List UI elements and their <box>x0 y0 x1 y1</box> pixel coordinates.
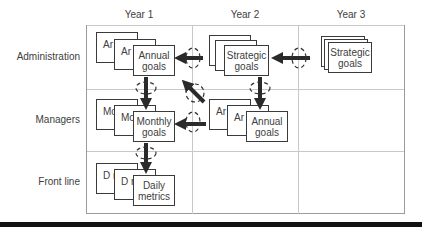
arrow-year3-strategic-to-year2-strategic <box>277 48 310 68</box>
arrow-year2-annual-to-year1-monthly <box>180 112 206 132</box>
arrow-year1-monthly-to-daily <box>136 143 156 168</box>
arrow-year2-strategic-to-year1-annual <box>180 48 203 68</box>
bottom-rule <box>0 222 422 227</box>
arrow-year1-annual-to-monthly <box>136 77 156 104</box>
arrows-layer <box>0 0 422 227</box>
arrow-year2-strategic-to-annual <box>250 77 270 104</box>
arrow-year2-annual-to-year1-annual-diagonal <box>186 84 204 102</box>
